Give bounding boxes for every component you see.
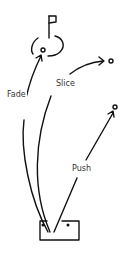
- push-label: Push: [71, 164, 92, 173]
- push-ball-icon: [113, 105, 117, 109]
- hole-ball-icon: [41, 48, 45, 52]
- slice-ball-icon: [109, 59, 113, 63]
- flag-icon: [49, 16, 56, 38]
- tee-box-icon: [40, 221, 79, 240]
- green-circle-icon: [32, 36, 64, 56]
- golf-shot-diagram: [0, 0, 127, 254]
- fade-path: [23, 55, 48, 232]
- slice-label: Slice: [55, 79, 76, 88]
- fade-label: Fade: [6, 90, 27, 99]
